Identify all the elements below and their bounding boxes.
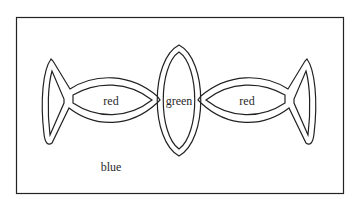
diagram-canvas: red green red blue <box>0 0 359 199</box>
region-label-right-fish: red <box>239 94 254 108</box>
region-label-left-fish: red <box>103 94 118 108</box>
region-label-background: blue <box>101 160 122 174</box>
left-fish-shape <box>42 59 160 144</box>
region-label-center-lens: green <box>166 94 193 108</box>
right-fish-shape <box>198 59 316 144</box>
